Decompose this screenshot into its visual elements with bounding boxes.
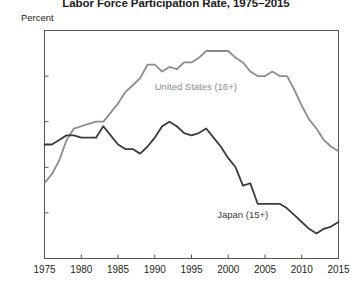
x-tick-label-1975: 1975 xyxy=(33,264,55,275)
x-tick-label-2015: 2015 xyxy=(327,264,349,275)
x-tick-label-1985: 1985 xyxy=(107,264,129,275)
x-tick-label-1995: 1995 xyxy=(180,264,202,275)
x-tick-label-1990: 1990 xyxy=(144,264,166,275)
x-tick-label-2000: 2000 xyxy=(217,264,239,275)
series-label-united-states: United States (16+) xyxy=(155,81,237,92)
chart-container: Labor Force Participation Rate, 1975–201… xyxy=(0,0,352,282)
x-tick-label-1980: 1980 xyxy=(70,264,92,275)
series-label-japan: Japan (15+) xyxy=(217,209,268,220)
x-tick-label-2010: 2010 xyxy=(291,264,313,275)
x-tick-label-2005: 2005 xyxy=(254,264,276,275)
x-axis-tick-labels: 197519801985199019952000200520102015 xyxy=(0,0,352,282)
